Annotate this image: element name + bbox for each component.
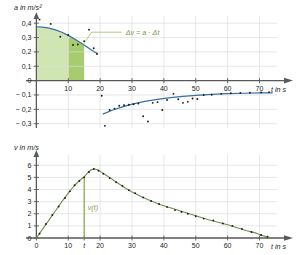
data-point xyxy=(45,223,47,225)
data-point xyxy=(260,91,262,93)
y-tick-label: − 0,1 xyxy=(16,91,32,98)
data-point xyxy=(101,95,103,97)
data-point xyxy=(195,215,197,217)
data-point xyxy=(212,219,214,221)
data-point xyxy=(69,190,71,192)
x-axis-arrow xyxy=(284,78,293,84)
x-axis-title: t in s xyxy=(271,85,287,94)
data-point xyxy=(88,171,90,173)
v-curve xyxy=(36,169,272,238)
y-tick-label: − 0,3 xyxy=(16,120,32,127)
data-point xyxy=(241,228,243,230)
data-point xyxy=(72,44,74,46)
y-tick-label: 1 xyxy=(27,222,31,229)
y-tick-label: 0 xyxy=(27,77,31,84)
data-point xyxy=(64,197,66,199)
data-point xyxy=(177,98,179,100)
area-light xyxy=(36,27,68,81)
figure-root: a in m/s²0,40,30,20,10− 0,1− 0,2− 0,3102… xyxy=(0,0,299,255)
x-tick-label: 0 xyxy=(34,242,38,249)
data-point xyxy=(93,168,95,170)
y-tick-label: 4 xyxy=(27,186,31,193)
data-point xyxy=(88,29,90,31)
data-point xyxy=(239,92,241,94)
acceleration-chart: a in m/s²0,40,30,20,10− 0,1− 0,2− 0,3102… xyxy=(0,0,299,138)
data-point xyxy=(142,115,144,117)
data-point xyxy=(98,170,100,172)
y-tick-label: 2 xyxy=(27,210,31,217)
data-point xyxy=(211,94,213,96)
data-point xyxy=(147,121,149,123)
data-point xyxy=(230,92,232,94)
y-tick-label: 6 xyxy=(27,162,31,169)
data-point xyxy=(192,98,194,100)
data-point xyxy=(115,181,117,183)
x-tick-label: 60 xyxy=(224,85,232,92)
data-point xyxy=(77,43,79,45)
data-point xyxy=(251,231,253,233)
y-axis-title: v in m/s xyxy=(14,143,39,152)
data-point xyxy=(142,196,144,198)
data-point xyxy=(74,184,76,186)
data-point xyxy=(180,211,182,213)
data-point xyxy=(157,101,159,103)
v-of-t-label: v(t) xyxy=(88,203,98,212)
y-tick-label: 5 xyxy=(27,174,31,181)
y-tick-label: 0,1 xyxy=(22,63,32,70)
data-point xyxy=(102,173,104,175)
data-point xyxy=(172,93,174,95)
data-point xyxy=(67,34,69,36)
data-point xyxy=(203,94,205,96)
data-point xyxy=(109,177,111,179)
y-tick-label: − 0,2 xyxy=(16,106,32,113)
data-point xyxy=(59,36,61,38)
y-tick-label: 0,2 xyxy=(22,48,32,55)
data-point xyxy=(83,176,85,178)
y-tick-label: 3 xyxy=(27,198,31,205)
data-point xyxy=(187,213,189,215)
data-point xyxy=(128,189,130,191)
data-point xyxy=(137,103,139,105)
data-point xyxy=(93,47,95,49)
data-point xyxy=(231,225,233,227)
data-point xyxy=(114,108,116,110)
x-tick-label: 40 xyxy=(160,242,168,249)
data-point xyxy=(133,103,135,105)
data-point xyxy=(166,99,168,101)
data-point xyxy=(51,214,53,216)
x-tick-label: 70 xyxy=(256,242,264,249)
y-axis-arrow xyxy=(34,12,40,19)
data-point xyxy=(39,19,41,21)
x-tick-label: 70 xyxy=(256,85,264,92)
data-point xyxy=(58,206,60,208)
data-point xyxy=(222,223,224,225)
a-negative-curve xyxy=(103,93,272,114)
data-point xyxy=(187,101,189,103)
x-tick-label: 60 xyxy=(224,242,232,249)
y-axis-title: a in m/s² xyxy=(14,3,42,12)
velocity-chart: v in m/s0123456010203040506070tt in sv(t… xyxy=(0,138,299,255)
x-tick-label-t: t xyxy=(83,242,86,249)
data-point xyxy=(128,104,130,106)
data-point xyxy=(118,105,120,107)
data-point xyxy=(203,218,205,220)
data-point xyxy=(166,206,168,208)
annotation-leader-line xyxy=(83,32,122,45)
data-point xyxy=(267,236,269,238)
x-axis-title: t in s xyxy=(271,242,287,251)
data-point xyxy=(196,98,198,100)
data-point xyxy=(78,180,80,182)
x-tick-label: 30 xyxy=(128,242,136,249)
data-point xyxy=(50,23,52,25)
x-tick-label: 30 xyxy=(128,85,136,92)
y-tick-label: 0,4 xyxy=(22,20,32,27)
area-dark xyxy=(68,35,84,80)
data-point xyxy=(260,234,262,236)
data-point xyxy=(96,53,98,55)
annotation-label: Δv = a · Δt xyxy=(125,28,161,37)
data-point xyxy=(134,192,136,194)
data-point xyxy=(268,91,270,93)
data-point xyxy=(121,185,123,187)
data-point xyxy=(161,109,163,111)
y-tick-label: 0 xyxy=(27,235,31,242)
